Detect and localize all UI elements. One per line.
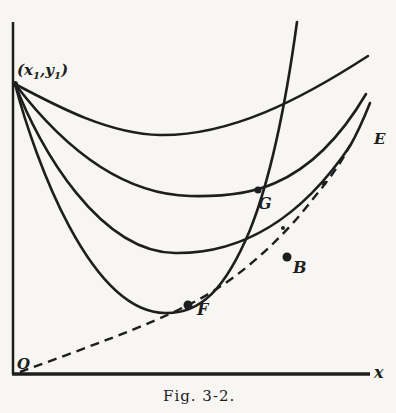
point-g-marker bbox=[255, 187, 262, 194]
curve-2 bbox=[15, 84, 366, 196]
start-point-marker bbox=[12, 81, 18, 87]
point-f-marker bbox=[184, 301, 193, 310]
x-axis-label: x bbox=[373, 363, 384, 382]
figure-3-2: (x1,y1) G F B E O x Fig. 3-2. bbox=[0, 0, 396, 413]
point-e-label: E bbox=[373, 130, 386, 148]
point-b-marker bbox=[283, 253, 292, 262]
point-f-label: F bbox=[196, 300, 210, 319]
point-b-label: B bbox=[292, 258, 307, 277]
origin-label: O bbox=[17, 355, 30, 373]
tangent-mark-1 bbox=[322, 181, 327, 186]
tangent-mark-2 bbox=[281, 226, 285, 230]
figure-caption: Fig. 3-2. bbox=[163, 387, 235, 405]
start-point-label: (x1,y1) bbox=[17, 61, 68, 81]
point-g-label: G bbox=[258, 194, 272, 213]
